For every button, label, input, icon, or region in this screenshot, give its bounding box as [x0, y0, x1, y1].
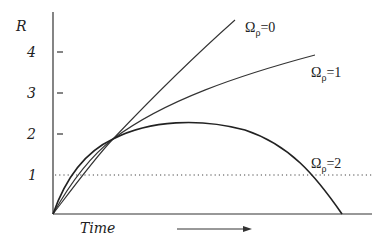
arrow-head-icon [243, 226, 252, 232]
curve-omega-2 [53, 123, 342, 214]
y-tick-label-3: 3 [27, 85, 36, 101]
label-omega-2: Ωρ=2 [311, 156, 341, 174]
label-omega-1: Ωρ=1 [311, 65, 341, 83]
y-tick-label-1: 1 [28, 167, 37, 183]
y-tick-label-4: 4 [26, 44, 36, 60]
y-tick-label-2: 2 [26, 126, 36, 142]
curve-omega-0 [53, 20, 235, 214]
curve-omega-1 [53, 55, 315, 214]
y-axis-label: R [15, 18, 27, 34]
chart: R 4 3 2 1 Time Ωρ=0 Ωρ=1 Ωρ=2 [0, 0, 390, 246]
x-axis-label: Time [80, 220, 115, 236]
label-omega-0: Ωρ=0 [245, 20, 275, 38]
